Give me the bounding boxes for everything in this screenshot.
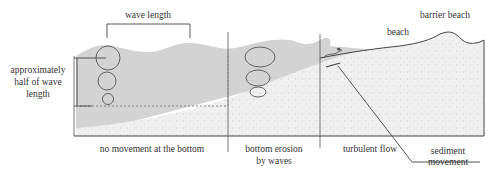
depth-label-line1: approximately [11, 65, 66, 75]
callout-label-line2: movement [428, 157, 468, 167]
zone-label-erosion-line1: bottom erosion [245, 144, 303, 154]
zone-label-erosion-line2: by waves [256, 156, 292, 166]
depth-label-line3: length [26, 89, 50, 99]
barrier-beach-label: barrier beach [420, 10, 470, 20]
callout-label-line1: sediment [431, 146, 466, 156]
wavelength-label: wave length [125, 10, 171, 20]
beach-label: beach [387, 27, 409, 37]
zone-label-turbulent: turbulent flow [343, 144, 397, 154]
depth-label-line2: half of wave [14, 77, 61, 87]
wave-diagram: wave length barrier beach beach approxim… [0, 0, 492, 179]
zone-label-no-movement: no movement at the bottom [100, 144, 205, 154]
